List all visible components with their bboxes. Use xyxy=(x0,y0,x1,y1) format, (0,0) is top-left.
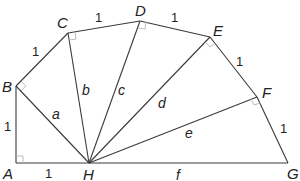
segment-label-a: a xyxy=(52,106,60,122)
right-angle-B xyxy=(21,81,26,91)
segment-d xyxy=(89,37,210,163)
unit-length-label: 1 xyxy=(95,10,102,25)
segment-CD xyxy=(68,21,140,33)
segment-EF xyxy=(210,37,257,97)
point-label-B: B xyxy=(2,78,12,95)
right-angle-A xyxy=(16,156,23,163)
outer-edges xyxy=(16,21,288,163)
segment-label-e: e xyxy=(185,125,193,141)
segment-label-c: c xyxy=(118,82,125,98)
right-angle-E xyxy=(205,42,215,47)
spokes xyxy=(16,21,257,163)
right-angle-markers xyxy=(16,22,260,163)
labels: ABCDEFGH1111111abcdef xyxy=(2,2,299,181)
point-label-H: H xyxy=(83,166,94,181)
segment-c xyxy=(89,21,140,163)
segment-e xyxy=(89,97,257,163)
unit-length-label: 1 xyxy=(171,10,178,25)
unit-length-label: 1 xyxy=(32,44,39,59)
point-label-F: F xyxy=(262,84,272,101)
point-label-D: D xyxy=(135,2,146,19)
point-label-E: E xyxy=(213,22,224,39)
segment-label-d: d xyxy=(158,95,167,111)
point-label-C: C xyxy=(57,14,68,31)
segment-BC xyxy=(16,33,68,86)
unit-length-label: 1 xyxy=(280,121,287,136)
unit-length-label: 1 xyxy=(4,119,11,134)
point-label-G: G xyxy=(287,165,299,181)
segment-label-f: f xyxy=(176,167,182,181)
unit-length-label: 1 xyxy=(45,166,52,181)
segment-label-b: b xyxy=(82,82,90,98)
unit-length-label: 1 xyxy=(236,54,243,69)
point-label-A: A xyxy=(2,165,13,181)
geometry-diagram: ABCDEFGH1111111abcdef xyxy=(0,0,300,181)
